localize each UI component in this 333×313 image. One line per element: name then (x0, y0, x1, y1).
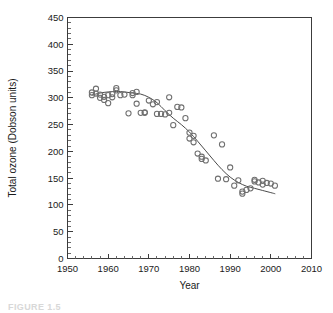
y-tick-label: 300 (48, 92, 64, 103)
data-point (167, 95, 172, 100)
x-tick-label: 2010 (301, 263, 322, 274)
x-tick-label: 2000 (260, 263, 281, 274)
data-point (219, 142, 224, 147)
y-tick-label: 350 (48, 65, 64, 76)
x-tick-label: 1980 (179, 263, 200, 274)
figure-container: 050100150200250300350400450 195019601970… (0, 0, 333, 313)
data-point (224, 177, 229, 182)
data-point (183, 116, 188, 121)
y-tick-label: 100 (48, 199, 64, 210)
y-tick-label: 450 (48, 12, 64, 23)
data-point (106, 101, 111, 106)
x-axis-ticks (68, 254, 312, 259)
plot-svg: 050100150200250300350400450 195019601970… (0, 0, 333, 295)
x-tick-label: 1960 (98, 263, 119, 274)
data-point (211, 133, 216, 138)
x-tick-label: 1970 (138, 263, 159, 274)
x-axis-tick-labels: 1950196019701980199020002010 (57, 263, 322, 274)
y-tick-label: 400 (48, 39, 64, 50)
ozone-scatter-chart: 050100150200250300350400450 195019601970… (0, 0, 333, 295)
y-tick-label: 200 (48, 146, 64, 157)
data-point (228, 165, 233, 170)
x-axis-title: Year (179, 280, 200, 291)
data-point (126, 111, 131, 116)
x-tick-label: 1950 (57, 263, 78, 274)
data-point (191, 140, 196, 145)
data-point (171, 123, 176, 128)
data-point (215, 176, 220, 181)
data-point (232, 183, 237, 188)
figure-caption: FIGURE 1.5 (8, 302, 208, 312)
y-tick-label: 250 (48, 119, 64, 130)
x-tick-label: 1990 (220, 263, 241, 274)
y-axis-tick-labels: 050100150200250300350400450 (48, 12, 64, 264)
axis-frame (68, 18, 312, 259)
y-tick-label: 50 (53, 226, 64, 237)
y-axis-title: Total ozone (Dobson units) (7, 79, 18, 198)
y-axis-ticks (68, 18, 73, 259)
y-tick-label: 150 (48, 173, 64, 184)
scatter-points-series (89, 86, 277, 197)
data-point (134, 101, 139, 106)
